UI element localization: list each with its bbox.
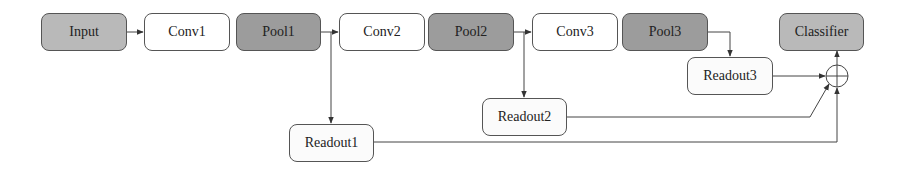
node-pool3-label: Pool3 bbox=[649, 24, 682, 40]
node-readout1: Readout1 bbox=[289, 124, 374, 162]
node-readout2-label: Readout2 bbox=[498, 109, 552, 125]
node-conv1: Conv1 bbox=[144, 13, 230, 51]
node-pool2: Pool2 bbox=[428, 13, 514, 51]
node-conv3: Conv3 bbox=[532, 13, 618, 51]
node-classifier: Classifier bbox=[779, 13, 864, 51]
edge-pool3-readout3 bbox=[708, 32, 730, 56]
node-pool1-label: Pool1 bbox=[262, 24, 295, 40]
node-pool1: Pool1 bbox=[236, 13, 321, 51]
node-readout3: Readout3 bbox=[687, 57, 773, 95]
node-readout2: Readout2 bbox=[482, 98, 567, 136]
node-input-label: Input bbox=[69, 24, 99, 40]
node-input: Input bbox=[41, 13, 127, 51]
node-readout3-label: Readout3 bbox=[703, 68, 757, 84]
node-conv2: Conv2 bbox=[339, 13, 425, 51]
architecture-diagram: Input Conv1 Pool1 Conv2 Pool2 Conv3 Pool… bbox=[0, 0, 904, 173]
edge-readout1-sum bbox=[374, 88, 837, 142]
sum-node-circle-plus-icon bbox=[826, 65, 848, 87]
node-pool2-label: Pool2 bbox=[455, 24, 488, 40]
node-classifier-label: Classifier bbox=[795, 24, 849, 40]
node-conv1-label: Conv1 bbox=[168, 24, 205, 40]
node-readout1-label: Readout1 bbox=[305, 135, 359, 151]
node-conv3-label: Conv3 bbox=[556, 24, 593, 40]
node-conv2-label: Conv2 bbox=[363, 24, 400, 40]
node-pool3: Pool3 bbox=[622, 13, 708, 51]
